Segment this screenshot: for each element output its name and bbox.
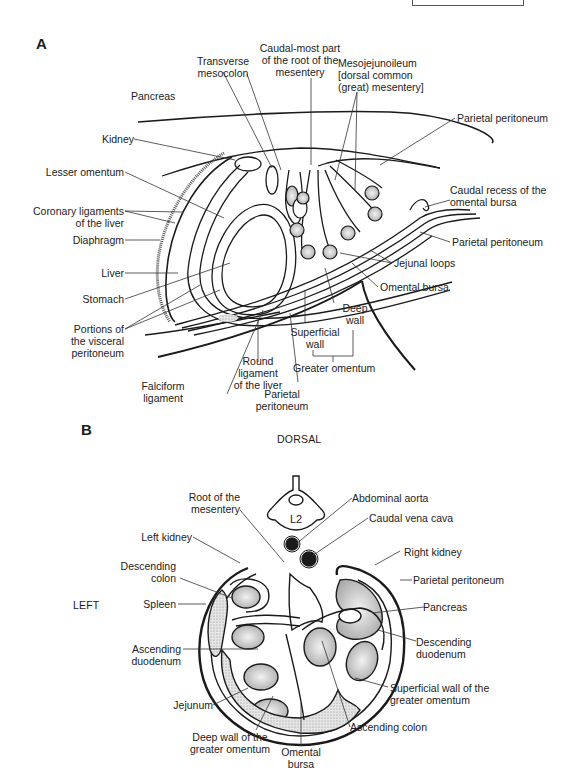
label-liver: Liver: [24, 267, 124, 279]
vertebra-label: L2: [284, 513, 308, 525]
label-abdominal-aorta: Abdominal aorta: [352, 492, 428, 504]
label-left-kidney: Left kidney: [110, 531, 192, 543]
label-parietal-peritoneum-top: Parietal peritoneum: [457, 112, 548, 124]
label-right-kidney: Right kidney: [404, 546, 462, 558]
label-spleen: Spleen: [110, 598, 176, 610]
label-descending-colon: Descending colon: [100, 560, 176, 584]
label-descending-duodenum: Descending duodenum: [416, 636, 471, 660]
orientation-dorsal: DORSAL: [277, 433, 321, 445]
orientation-left: LEFT: [73, 599, 99, 611]
panel-b-letter: B: [81, 421, 92, 438]
label-stomach: Stomach: [24, 293, 124, 305]
panel-a-letter: A: [36, 35, 47, 52]
label-parietal-peritoneum-bottom: Parietal peritoneum: [252, 388, 312, 412]
label-deep-wall: Deep wall: [335, 302, 375, 326]
label-round-ligament: Round ligament of the liver: [228, 355, 288, 391]
label-root-mesentery: Root of the mesentery: [170, 491, 240, 515]
label-omental-bursa-a: Omental bursa: [380, 281, 449, 293]
anatomy-figure: A Transverse mesocolon Caudal-most part …: [0, 0, 570, 777]
label-parietal-peritoneum-right: Parietal peritoneum: [452, 236, 543, 248]
label-jejunal-loops: Jejunal loops: [394, 257, 455, 269]
label-ascending-duodenum: Ascending duodenum: [100, 643, 181, 667]
label-parietal-peritoneum-b: Parietal peritoneum: [413, 574, 504, 586]
label-jejunum: Jejunum: [150, 699, 213, 711]
label-caudal-recess: Caudal recess of the omental bursa: [450, 184, 546, 208]
label-kidney: Kidney: [64, 133, 134, 145]
label-greater-omentum: Greater omentum: [293, 362, 375, 374]
label-ascending-colon: Ascending colon: [350, 721, 427, 733]
label-diaphragm: Diaphragm: [24, 234, 124, 246]
label-pancreas-a: Pancreas: [131, 90, 175, 102]
label-falciform-ligament: Falciform ligament: [128, 380, 198, 404]
label-superficial-wall-a: Superficial wall: [285, 326, 345, 350]
label-lesser-omentum: Lesser omentum: [24, 166, 124, 178]
label-omental-bursa-b: Omental bursa: [276, 746, 326, 770]
label-mesojejunoileum: Mesojejunoileum [dorsal common (great) m…: [338, 57, 424, 93]
label-coronary-ligaments: Coronary ligaments of the liver: [10, 205, 124, 229]
panel-a-loops: [286, 186, 382, 259]
label-caudal-vena-cava: Caudal vena cava: [369, 512, 453, 524]
label-superficial-wall-b: Superficial wall of the greater omentum: [390, 682, 489, 706]
label-pancreas-b: Pancreas: [423, 601, 467, 613]
label-deep-wall-b: Deep wall of the greater omentum: [170, 731, 290, 755]
label-visceral-peritoneum: Portions of the visceral peritoneum: [24, 323, 124, 359]
